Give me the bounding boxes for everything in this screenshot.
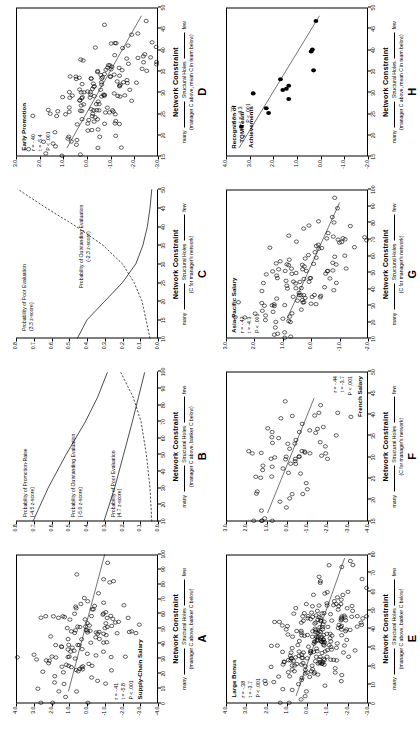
data-point <box>323 683 327 686</box>
data-point <box>325 237 329 240</box>
x-tick-mark <box>368 646 371 647</box>
data-point <box>275 276 279 279</box>
data-point <box>285 287 289 290</box>
y-tick-label: -2.0 <box>325 524 330 533</box>
data-point <box>334 281 338 284</box>
data-point <box>294 271 298 274</box>
x-axis-title: Network Constraint <box>171 189 180 338</box>
data-point <box>109 42 113 45</box>
data-point <box>60 154 64 157</box>
data-point <box>44 152 48 155</box>
x-tick-label: 30 <box>161 655 166 661</box>
x-tick-mark <box>158 553 161 554</box>
data-point <box>336 238 340 241</box>
data-point <box>290 646 294 649</box>
data-point <box>105 106 109 109</box>
data-point <box>261 468 265 471</box>
data-point <box>317 575 321 578</box>
x-tick-label: 50 <box>161 452 166 458</box>
data-point <box>74 143 78 146</box>
data-point <box>339 597 343 600</box>
y-tick-label: -1.0 <box>108 159 113 168</box>
data-point <box>355 624 359 627</box>
data-point <box>286 632 290 635</box>
data-point <box>80 647 84 650</box>
x-tick-label: 10 <box>371 681 376 687</box>
data-point <box>291 634 295 637</box>
data-point <box>90 128 94 131</box>
data-point <box>310 47 315 51</box>
data-point <box>44 614 48 617</box>
x-tick-mark <box>368 113 371 114</box>
y-tick-label: 0.8 <box>13 524 18 531</box>
x-tick-label: 15 <box>371 518 376 524</box>
data-point <box>119 146 123 149</box>
data-point <box>340 673 344 676</box>
data-point <box>280 623 284 626</box>
data-point <box>288 446 292 449</box>
y-tick-label: -1.0 <box>325 706 330 715</box>
data-point <box>328 277 332 280</box>
panel-stats-h: r = -.79 t = -4.3 P < .001 <box>230 103 252 122</box>
x-tick-mark <box>368 221 371 222</box>
data-point <box>113 53 117 56</box>
curve-label-2: Probability of Outstanding Evaluation (-… <box>78 204 91 288</box>
x-tick-mark <box>368 553 371 554</box>
data-point <box>270 440 274 443</box>
x-tick-label: 60 <box>161 435 166 441</box>
y-tick-label: -3.0 <box>365 706 370 715</box>
data-point <box>291 280 295 283</box>
panel-grid: A4.03.02.01.00.0-1.0-2.0-3.0-4.001020304… <box>0 0 420 729</box>
data-point <box>114 134 118 137</box>
data-point <box>287 258 291 261</box>
data-point <box>289 650 293 653</box>
data-point <box>82 596 86 599</box>
x-tick-label: 100 <box>371 185 376 194</box>
x-tick-label: 35 <box>161 68 166 74</box>
y-tick-label: 3.0 <box>223 342 228 349</box>
x-tick-mark <box>158 437 161 438</box>
data-point <box>85 652 89 655</box>
data-point <box>289 267 293 270</box>
data-point <box>56 109 60 112</box>
data-point <box>88 629 92 632</box>
data-point <box>63 112 67 115</box>
data-point <box>325 456 329 459</box>
data-point <box>348 559 352 562</box>
data-point <box>294 287 298 290</box>
panel-G: G3.02.01.00.0-1.0-2.01020304050607080901… <box>210 182 420 364</box>
data-point <box>350 604 354 607</box>
data-point <box>75 572 79 575</box>
data-point <box>264 314 268 317</box>
y-tick-label: 2.0 <box>244 524 249 531</box>
data-point <box>352 246 356 249</box>
data-point <box>94 653 98 656</box>
x-tick-mark <box>158 226 161 227</box>
x-tick-mark <box>158 598 161 599</box>
x-tick-mark <box>368 392 371 393</box>
y-tick-label: 0.7 <box>31 342 36 349</box>
y-tick-label: 1.0 <box>61 159 66 166</box>
x-tick-label: 15 <box>161 153 166 159</box>
x-tick-mark <box>158 49 161 50</box>
data-point <box>102 577 106 580</box>
data-point <box>271 270 275 273</box>
data-point <box>48 112 52 115</box>
y-tick-label: 0.6 <box>49 342 54 349</box>
y-tick-label: 1.0 <box>294 159 299 166</box>
data-point <box>109 668 113 671</box>
data-point <box>103 122 107 125</box>
panel-letter-e: E <box>406 634 418 642</box>
x-tick-label: 20 <box>371 319 376 325</box>
data-point <box>303 257 307 260</box>
x-tick-mark <box>368 304 371 305</box>
data-point <box>277 436 281 439</box>
x-tick-label: 30 <box>371 454 376 460</box>
x-axis-scale-legend: manyStructural Holesfew <box>181 7 187 156</box>
data-point <box>130 629 134 632</box>
data-point <box>141 60 145 63</box>
data-point <box>55 114 59 117</box>
data-point <box>308 451 312 454</box>
x-tick-mark <box>368 371 371 372</box>
rule-right <box>394 579 395 605</box>
